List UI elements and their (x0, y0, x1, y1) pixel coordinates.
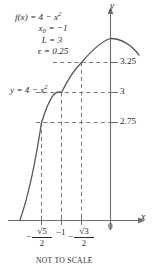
figure-caption: NOT TO SCALE (36, 257, 93, 265)
x-tick-label-neg-sqrt5-over-2: − √5 2 (32, 226, 52, 248)
annotation-function-def: f(x) = 4 − x2 (13, 12, 91, 23)
y-tick-label-3: 3 (120, 87, 125, 96)
fraction-denominator: 2 (32, 238, 52, 248)
fraction-denominator: 2 (74, 238, 94, 248)
minus-sign: − (26, 231, 31, 241)
annotation-block: f(x) = 4 − x2 x0 = −1 L = 3 ϵ = 0.25 (13, 12, 91, 58)
curve-equation-label: y = 4 − x2 (10, 86, 48, 95)
x-axis-label: x (141, 213, 145, 223)
fraction-numerator: √5 (32, 226, 52, 238)
x-tick-label-neg-sqrt3-over-2: − √3 2 (74, 226, 94, 248)
annotation-limit: L = 3 (13, 35, 91, 46)
origin-label: 0 (108, 222, 113, 231)
annotation-epsilon: ϵ = 0.25 (13, 46, 91, 57)
minus-sign: − (68, 231, 73, 241)
fraction-numerator: √3 (74, 226, 94, 238)
x-tick-label-neg-1: −1 (56, 228, 66, 237)
y-tick-label-2-75: 2.75 (120, 117, 136, 126)
y-axis-label: y (110, 2, 114, 12)
y-tick-label-3-25: 3.25 (120, 57, 136, 66)
annotation-x0: x0 = −1 (13, 23, 91, 34)
